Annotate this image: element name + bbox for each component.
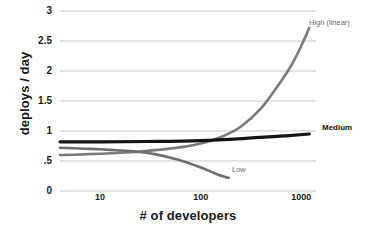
y-tick-label: 3: [6, 5, 52, 16]
series-label-low: Low: [232, 165, 246, 174]
x-tick-label: 10: [70, 192, 130, 202]
series-label-medium: Medium: [322, 123, 352, 132]
y-tick-label: 1: [6, 125, 52, 136]
x-tick-label: 100: [171, 192, 231, 202]
series-label-high: High (linear): [309, 18, 350, 27]
series-line-low: [60, 148, 229, 178]
y-tick-label: 2.5: [6, 35, 52, 46]
series-line-medium: [60, 134, 309, 142]
x-axis-title: # of developers: [60, 208, 316, 223]
chart-container: deploys / day # of developers 32.521.51.…: [0, 0, 372, 234]
y-tick-label: 1.5: [6, 95, 52, 106]
y-tick-label: 0: [6, 185, 52, 196]
series-lines-group: [60, 28, 309, 178]
y-tick-label: 2: [6, 65, 52, 76]
y-tick-label: .5: [6, 155, 52, 166]
x-tick-label: 1000: [271, 192, 331, 202]
